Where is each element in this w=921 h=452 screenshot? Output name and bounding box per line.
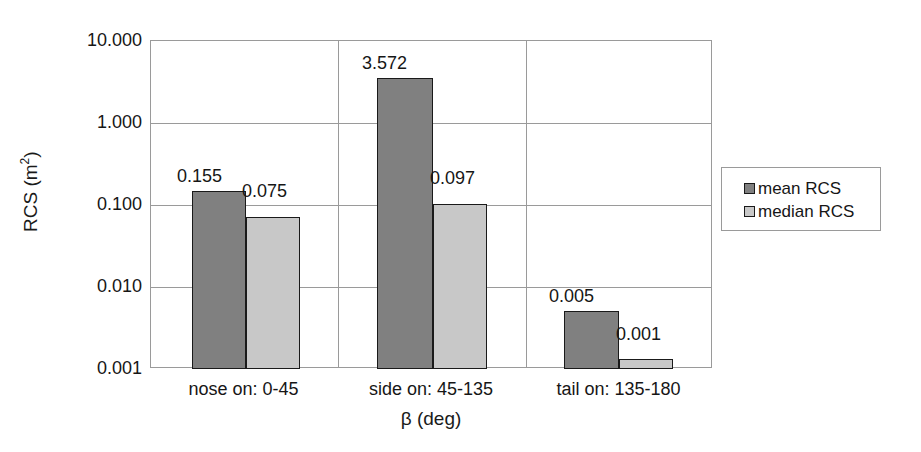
category-separator-2	[526, 41, 527, 367]
bar-median-tail-on	[619, 359, 673, 369]
legend-label-mean-rcs: mean RCS	[758, 179, 841, 199]
y-tick-label-1: 1.000	[50, 113, 142, 131]
x-category-label-nose-on: nose on: 0-45	[150, 379, 337, 400]
bar-label-median-side-on: 0.097	[430, 169, 475, 187]
x-axis-title: β (deg)	[150, 408, 712, 430]
bar-median-nose-on	[246, 217, 300, 369]
y-tick-label-0.1: 0.100	[50, 195, 142, 213]
bar-label-mean-side-on: 3.572	[362, 54, 407, 72]
bar-mean-nose-on	[192, 191, 246, 369]
rcs-bar-chart-figure: RCS (m2) 10.000 1.000 0.100 0.010 0.001 …	[0, 0, 921, 452]
legend-label-median-rcs: median RCS	[758, 202, 854, 222]
legend-item-median-rcs: median RCS	[744, 200, 880, 223]
plot-area: 0.155 0.075 3.572 0.097 0.005 0.001	[150, 40, 712, 368]
x-category-label-side-on: side on: 45-135	[337, 379, 525, 400]
legend-swatch-mean-icon	[744, 183, 755, 194]
bar-mean-tail-on	[564, 311, 619, 369]
y-tick-label-0.001: 0.001	[50, 359, 142, 377]
y-axis-title-close: )	[20, 151, 41, 157]
x-category-label-tail-on: tail on: 135-180	[525, 379, 712, 400]
legend-item-mean-rcs: mean RCS	[744, 177, 880, 200]
y-tick-label-10: 10.000	[50, 31, 142, 49]
y-axis-title-base: RCS (m	[20, 164, 41, 232]
bar-label-median-nose-on: 0.075	[242, 182, 287, 200]
y-axis-tick-labels: 10.000 1.000 0.100 0.010 0.001	[50, 0, 142, 452]
chart-legend: mean RCS median RCS	[721, 167, 881, 231]
y-axis-title: RCS (m2)	[18, 92, 41, 292]
legend-swatch-median-icon	[744, 206, 755, 217]
y-tick-label-0.01: 0.010	[50, 277, 142, 295]
category-separator-1	[338, 41, 339, 367]
bar-median-side-on	[433, 204, 487, 369]
bar-label-mean-nose-on: 0.155	[177, 167, 222, 185]
bar-label-mean-tail-on: 0.005	[549, 287, 594, 305]
y-axis-title-exponent: 2	[18, 158, 32, 165]
bar-mean-side-on	[377, 78, 433, 369]
bar-label-median-tail-on: 0.001	[616, 325, 661, 343]
